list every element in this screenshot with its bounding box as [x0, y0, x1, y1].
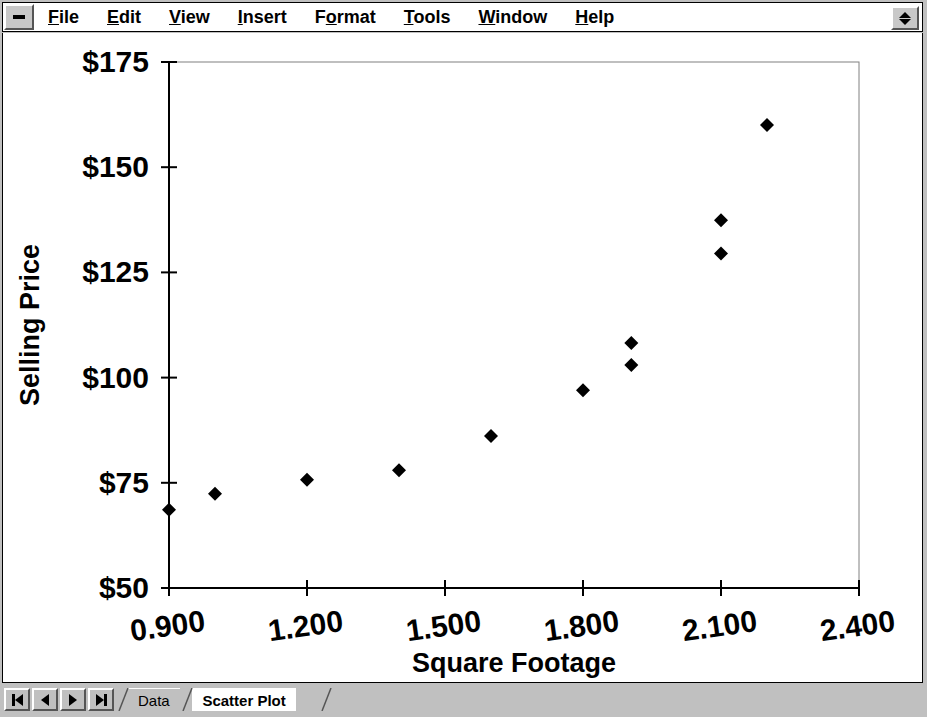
menu-window-accelerator: W	[478, 7, 495, 27]
excel-chart-window: FileEditViewInsertFormatToolsWindowHelp …	[0, 0, 927, 717]
spinner-up-arrow[interactable]	[899, 12, 911, 18]
x-tick-label-1: 1.200	[266, 604, 345, 647]
sheet-tab-label: Data	[138, 692, 170, 709]
menu-item-list: FileEditViewInsertFormatToolsWindowHelp	[48, 7, 614, 28]
menu-insert[interactable]: Insert	[238, 7, 287, 28]
up-down-spinner-icon[interactable]	[891, 6, 919, 30]
first-triangle	[15, 694, 23, 706]
tab-nav-previous[interactable]	[32, 688, 58, 711]
tab-nav-buttons	[4, 688, 116, 711]
menu-file-accelerator: F	[48, 7, 59, 27]
window-control-dash	[13, 15, 25, 19]
x-tick-label-3: 1.800	[542, 604, 621, 647]
sheet-tab-skew	[118, 688, 130, 711]
scatter-plot-chart[interactable]: $50$75$100$125$150$1750.9001.2001.5001.8…	[3, 33, 922, 681]
x-tick-label-5: 2.400	[818, 604, 897, 647]
x-tick-label-0: 0.900	[128, 604, 207, 647]
next-record-icon	[69, 694, 77, 706]
y-tick-label-0: $50	[99, 571, 149, 604]
menu-window[interactable]: Window	[478, 7, 547, 28]
menu-view-accelerator: V	[169, 7, 181, 27]
menu-help[interactable]: Help	[575, 7, 614, 28]
sheet-tab-bar: DataScatter Plot	[2, 686, 923, 715]
menu-format-accelerator: o	[326, 7, 337, 27]
last-record-icon	[96, 694, 107, 706]
first-record-icon	[12, 694, 23, 706]
menu-tools-accelerator: T	[404, 7, 414, 27]
x-axis-title: Square Footage	[412, 648, 616, 678]
y-tick-label-5: $175	[82, 45, 149, 78]
y-tick-label-1: $75	[99, 466, 149, 499]
menu-format[interactable]: Format	[315, 7, 376, 28]
last-triangle	[96, 694, 104, 706]
x-tick-label-4: 2.100	[680, 604, 759, 647]
next-triangle	[69, 694, 77, 706]
sheet-tab-label: Scatter Plot	[202, 692, 285, 709]
menu-tools[interactable]: Tools	[404, 7, 451, 28]
previous-record-icon	[41, 694, 49, 706]
spinner-down-arrow[interactable]	[899, 19, 911, 25]
plot-area-border	[169, 62, 859, 588]
y-tick-label-2: $100	[82, 361, 149, 394]
sheet-tab-data[interactable]: Data	[128, 688, 180, 711]
tab-nav-first[interactable]	[4, 688, 30, 711]
sheet-tab-skew	[182, 688, 194, 711]
x-tick-label-2: 1.500	[404, 604, 483, 647]
window-control-box-icon[interactable]	[4, 4, 34, 30]
sheet-tab-skew-end	[321, 688, 333, 711]
sheet-tabs: DataScatter Plot	[118, 688, 923, 713]
last-bar	[104, 694, 107, 706]
tab-nav-next[interactable]	[60, 688, 86, 711]
chart-sheet[interactable]: $50$75$100$125$150$1750.9001.2001.5001.8…	[2, 33, 923, 683]
menu-insert-accelerator: I	[238, 7, 243, 27]
y-tick-label-3: $125	[82, 255, 149, 288]
y-tick-label-4: $150	[82, 150, 149, 183]
menu-view[interactable]: View	[169, 7, 210, 28]
sheet-tab-scatter-plot[interactable]: Scatter Plot	[192, 688, 295, 711]
menu-help-accelerator: H	[575, 7, 588, 27]
tab-nav-last[interactable]	[88, 688, 114, 711]
menu-edit[interactable]: Edit	[107, 7, 141, 28]
menu-edit-accelerator: E	[107, 7, 119, 27]
y-axis-title: Selling Price	[15, 244, 45, 406]
previous-triangle	[41, 694, 49, 706]
menu-file[interactable]: File	[48, 7, 79, 28]
menu-bar: FileEditViewInsertFormatToolsWindowHelp	[2, 2, 923, 32]
